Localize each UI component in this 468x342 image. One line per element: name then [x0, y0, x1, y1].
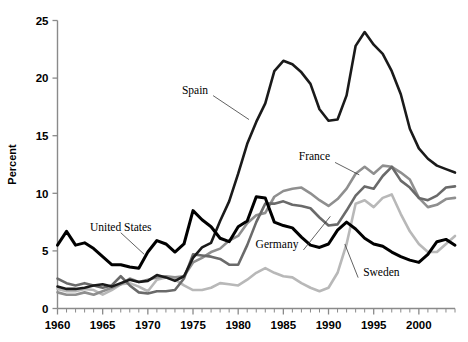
leader-line-united-states — [121, 233, 144, 255]
x-tick-label: 1965 — [90, 319, 116, 331]
y-tick-label: 5 — [42, 245, 49, 257]
y-tick-label: 20 — [36, 72, 49, 84]
x-tick-label: 1960 — [45, 319, 71, 331]
x-tick-label: 2000 — [406, 319, 432, 331]
y-tick-label: 25 — [36, 15, 49, 27]
y-tick-label: 10 — [36, 188, 49, 200]
y-tick-label: 0 — [42, 303, 48, 315]
x-tick-label: 1975 — [180, 319, 206, 331]
x-tick-label: 1990 — [316, 319, 342, 331]
series-label-france: France — [299, 150, 330, 162]
leader-line-sweden — [345, 244, 358, 278]
x-tick-label: 1970 — [135, 319, 161, 331]
series-line-spain — [58, 32, 456, 289]
series-label-united-states: United States — [90, 221, 152, 233]
x-tick-label: 1995 — [361, 319, 387, 331]
series-label-sweden: Sweden — [363, 266, 400, 278]
x-tick-label: 1980 — [225, 319, 251, 331]
series-label-spain: Spain — [182, 84, 208, 97]
series-label-germany: Germany — [256, 238, 299, 251]
x-tick-label: 1985 — [271, 319, 297, 331]
chart-plot-area: 0510152025196019651970197519801985199019… — [0, 0, 468, 342]
leader-line-france — [335, 162, 359, 174]
leader-line-spain — [213, 96, 249, 120]
y-tick-label: 15 — [36, 130, 49, 142]
unemployment-rate-line-chart: 0510152025196019651970197519801985199019… — [0, 0, 468, 342]
y-axis-title: Percent — [6, 144, 18, 185]
